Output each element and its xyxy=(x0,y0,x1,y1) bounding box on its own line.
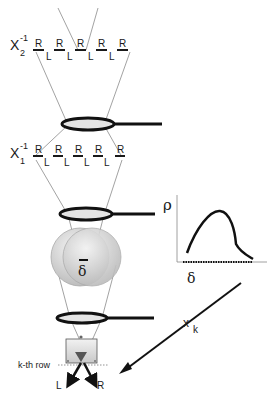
delta-label: δ xyxy=(78,263,86,279)
crystal-spheres: δ xyxy=(51,228,121,286)
svg-text:X: X xyxy=(10,145,20,161)
svg-text:R: R xyxy=(117,144,124,155)
svg-text:R: R xyxy=(35,38,42,49)
svg-text:L: L xyxy=(44,157,50,168)
lens-2 xyxy=(60,208,155,220)
svg-text:R: R xyxy=(75,144,82,155)
svg-text:R: R xyxy=(98,38,105,49)
operator-x1-inv: X 1 -1 xyxy=(10,141,28,166)
diagram-canvas: X 2 -1 R R R R R L L L L X 1 -1 R xyxy=(0,0,276,397)
svg-text:R: R xyxy=(56,38,63,49)
svg-text:L: L xyxy=(84,157,90,168)
delta-axis-label: δ xyxy=(187,270,195,286)
svg-text:k: k xyxy=(193,324,199,335)
svg-text:-1: -1 xyxy=(20,33,28,43)
svg-text:1: 1 xyxy=(20,156,25,166)
svg-text:R: R xyxy=(95,144,102,155)
svg-text:-1: -1 xyxy=(20,141,28,151)
svg-text:L: L xyxy=(109,51,115,62)
lens-3 xyxy=(57,313,154,323)
output-left-label: L xyxy=(56,380,62,391)
svg-text:L: L xyxy=(64,157,70,168)
xk-arrow: x k xyxy=(119,283,241,374)
svg-text:X: X xyxy=(10,37,20,53)
svg-text:x: x xyxy=(183,316,189,330)
svg-text:L: L xyxy=(46,51,52,62)
lens-1 xyxy=(62,118,162,130)
svg-text:R: R xyxy=(77,38,84,49)
output-arrows xyxy=(70,363,94,382)
detector-box xyxy=(66,335,97,363)
svg-text:R: R xyxy=(55,144,62,155)
output-right-label: R xyxy=(97,380,104,391)
svg-text:k-th row: k-th row xyxy=(18,360,51,370)
svg-text:2: 2 xyxy=(20,48,25,58)
svg-text:R: R xyxy=(35,144,42,155)
rho-axis-label: ρ xyxy=(163,196,172,214)
svg-text:L: L xyxy=(67,51,73,62)
svg-text:R: R xyxy=(119,38,126,49)
rho-delta-plot: ρ δ xyxy=(163,195,267,286)
operator-x2-inv: X 2 -1 xyxy=(10,33,28,58)
svg-text:L: L xyxy=(104,157,110,168)
svg-text:L: L xyxy=(88,51,94,62)
